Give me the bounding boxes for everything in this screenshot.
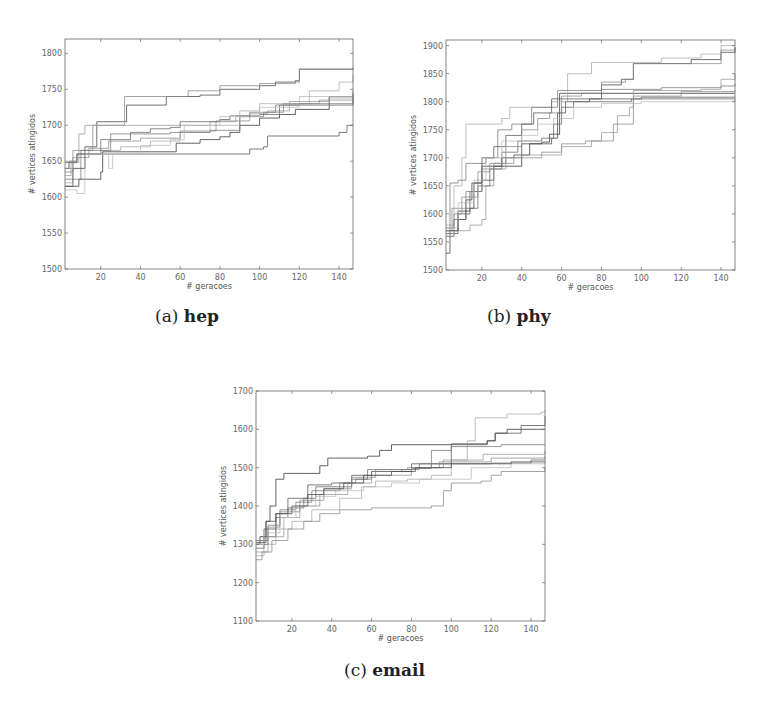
caption-name: email: [372, 660, 425, 680]
chart-svg: 2040608010012014011001200130014001500160…: [0, 0, 765, 714]
y-tick-label: 1200: [233, 579, 253, 588]
chart-email: 2040608010012014011001200130014001500160…: [0, 0, 765, 650]
caption-name: phy: [517, 306, 551, 326]
caption-email: (c) email: [344, 660, 425, 680]
x-tick-label: 120: [484, 625, 499, 634]
series-line-run3: [256, 416, 545, 541]
y-tick-label: 1700: [233, 387, 253, 396]
x-tick-label: 20: [287, 625, 297, 634]
x-axis-label: # geracoes: [378, 634, 424, 643]
x-tick-label: 140: [523, 625, 538, 634]
y-tick-label: 1500: [233, 464, 253, 473]
y-axis-label: # vertices atingidos: [219, 466, 228, 546]
caption-label: (c): [344, 660, 367, 680]
x-tick-label: 80: [406, 625, 416, 634]
y-tick-label: 1600: [233, 425, 253, 434]
y-tick-label: 1100: [233, 617, 253, 626]
x-tick-label: 100: [444, 625, 459, 634]
caption-phy: (b) phy: [487, 306, 551, 326]
x-tick-label: 60: [367, 625, 377, 634]
caption-name: hep: [184, 306, 219, 326]
y-tick-label: 1300: [233, 540, 253, 549]
x-tick-label: 40: [327, 625, 337, 634]
caption-label: (b): [487, 306, 511, 326]
caption-label: (a): [155, 306, 178, 326]
caption-hep: (a) hep: [155, 306, 219, 326]
y-tick-label: 1400: [233, 502, 253, 511]
